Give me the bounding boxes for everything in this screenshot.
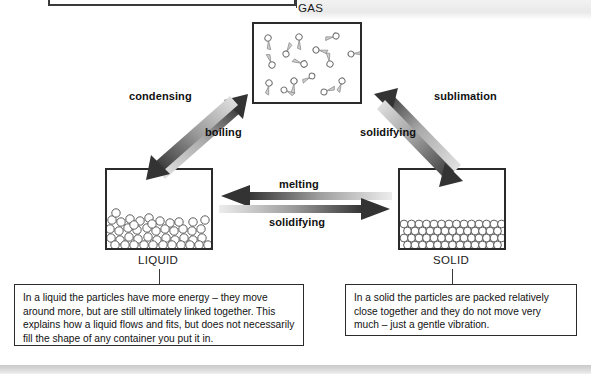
gas-caption-connector: [296, 0, 297, 8]
liquid-label: LIQUID: [138, 254, 178, 266]
scan-band-bottom: [0, 365, 591, 374]
transition-label-solidifying-gas: solidifying: [360, 126, 416, 138]
solid-label: SOLID: [433, 254, 469, 266]
liquid-caption-connector: [159, 269, 160, 284]
transition-label-sublimation: sublimation: [434, 90, 497, 102]
gas-particle-box: [252, 22, 362, 104]
states-of-matter-diagram: GAS: [0, 0, 591, 374]
transition-label-solidifying-liquid: solidifying: [269, 216, 325, 228]
liquid-particles: [107, 170, 211, 248]
scan-band-top: [300, 0, 591, 20]
gas-label: GAS: [298, 2, 323, 14]
solid-description-box: In a solid the particles are packed rela…: [345, 284, 577, 336]
transition-label-boiling: boiling: [205, 126, 242, 138]
transition-label-melting: melting: [279, 178, 319, 190]
solid-particle-box: [398, 168, 506, 250]
solid-caption-connector: [452, 269, 453, 284]
transition-label-condensing: condensing: [129, 90, 192, 102]
liquid-particle-box: [105, 168, 213, 250]
clipped-box-top: [48, 0, 296, 6]
solid-particles: [400, 170, 504, 248]
gas-particles: [254, 24, 360, 102]
liquid-description-box: In a liquid the particles have more ener…: [14, 284, 304, 346]
